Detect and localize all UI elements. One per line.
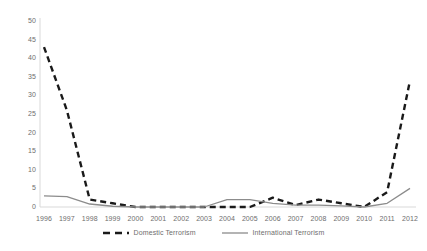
legend-swatch-dashed-icon	[103, 229, 129, 237]
legend-label: International Terrorism	[253, 229, 325, 237]
chart-plot-area	[0, 0, 427, 251]
chart-legend: Domestic TerrorismInternational Terroris…	[0, 229, 427, 237]
legend-label: Domestic Terrorism	[134, 229, 196, 237]
series-line-international-terrorism	[44, 188, 410, 207]
legend-item[interactable]: Domestic Terrorism	[103, 229, 196, 237]
series-line-domestic-terrorism	[44, 47, 410, 207]
legend-swatch-solid-icon	[222, 229, 248, 237]
axis-lines	[40, 18, 416, 207]
chart-container: 05101520253035404550 1996199719981999200…	[0, 0, 427, 251]
legend-item[interactable]: International Terrorism	[222, 229, 325, 237]
series-lines	[44, 47, 410, 207]
